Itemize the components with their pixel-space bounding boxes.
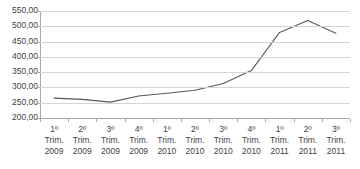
x-axis-tick-label-line: 4º <box>237 124 265 135</box>
plot-area <box>40 11 350 118</box>
gridline <box>40 42 350 43</box>
x-axis-tick-label-line: 2009 <box>96 146 124 157</box>
x-axis-tick-label-line: 3º <box>209 124 237 135</box>
x-axis-tick-label-line: 2011 <box>294 146 322 157</box>
x-axis-tick-mark <box>40 119 41 122</box>
gridline <box>40 57 350 58</box>
y-axis-tick-label: 550,00 <box>2 6 38 15</box>
y-axis-tick-mark <box>36 103 40 104</box>
x-axis-tick-mark <box>294 119 295 122</box>
x-axis-tick-label-line: Trim. <box>68 135 96 146</box>
x-axis-tick-label-line: Trim. <box>96 135 124 146</box>
x-axis-tick-label-line: Trim. <box>181 135 209 146</box>
x-axis-tick-label-line: 4º <box>125 124 153 135</box>
x-axis-tick-label: 2ºTrim.2010 <box>181 124 209 166</box>
x-axis-tick-label-line: 2009 <box>125 146 153 157</box>
x-axis-tick-label-line: 2009 <box>68 146 96 157</box>
x-axis-tick-label-line: 1º <box>40 124 68 135</box>
x-axis-tick-label: 1ºTrim.2011 <box>266 124 294 166</box>
x-axis-tick-label-line: 3º <box>96 124 124 135</box>
gridline <box>40 87 350 88</box>
x-axis-tick-mark <box>237 119 238 122</box>
y-axis-tick-label: 200,00 <box>2 113 38 122</box>
x-axis-tick-label: 3ºTrim.2011 <box>322 124 350 166</box>
x-axis-tick-label-line: 2011 <box>322 146 350 157</box>
y-axis-tick-label: 450,00 <box>2 37 38 46</box>
x-axis-tick-label-line: Trim. <box>294 135 322 146</box>
x-axis-tick-label-line: 2010 <box>153 146 181 157</box>
x-axis-tick-label: 1ºTrim.2009 <box>40 124 68 166</box>
y-axis-tick-mark <box>36 57 40 58</box>
x-axis-tick-label: 3ºTrim.2010 <box>209 124 237 166</box>
x-axis-tick-label-line: Trim. <box>153 135 181 146</box>
x-axis-tick-mark <box>153 119 154 122</box>
x-axis-tick-mark <box>181 119 182 122</box>
y-axis-tick-label: 400,00 <box>2 52 38 61</box>
x-axis-tick-label-line: 2010 <box>181 146 209 157</box>
y-axis-tick-mark <box>36 11 40 12</box>
x-axis-tick-mark <box>350 119 351 122</box>
y-axis-tick-label: 250,00 <box>2 98 38 107</box>
y-axis-tick-label: 500,00 <box>2 21 38 30</box>
x-axis-tick-label-line: 1º <box>153 124 181 135</box>
x-axis-tick-label-line: Trim. <box>237 135 265 146</box>
x-axis-tick-mark <box>209 119 210 122</box>
y-axis-tick-mark <box>36 87 40 88</box>
x-axis-tick-label: 1ºTrim.2010 <box>153 124 181 166</box>
y-axis-tick-mark <box>36 72 40 73</box>
y-axis-tick-mark <box>36 42 40 43</box>
x-axis-tick-label-line: 2010 <box>237 146 265 157</box>
y-axis-tick-label: 300,00 <box>2 82 38 91</box>
x-axis-tick-label-line: 1º <box>266 124 294 135</box>
x-axis-tick-label-line: Trim. <box>209 135 237 146</box>
gridline <box>40 11 350 12</box>
x-axis-tick-label: 2ºTrim.2009 <box>68 124 96 166</box>
x-axis-tick-label-line: 2º <box>181 124 209 135</box>
x-axis-tick-label-line: Trim. <box>266 135 294 146</box>
y-axis-tick-labels: 550,00500,00450,00400,00350,00300,00250,… <box>0 0 38 169</box>
x-axis-tick-label-line: 2º <box>68 124 96 135</box>
x-axis-tick-label-line: 3º <box>322 124 350 135</box>
x-axis-tick-label-line: Trim. <box>40 135 68 146</box>
x-axis-tick-label-line: 2009 <box>40 146 68 157</box>
y-axis-tick-mark <box>36 26 40 27</box>
x-axis-tick-label: 4ºTrim.2010 <box>237 124 265 166</box>
y-axis-tick-label: 350,00 <box>2 67 38 76</box>
x-axis-tick-label-line: Trim. <box>322 135 350 146</box>
x-axis-tick-label-line: 2º <box>294 124 322 135</box>
gridline <box>40 118 350 119</box>
x-axis-tick-label-line: Trim. <box>125 135 153 146</box>
x-axis-tick-label: 3ºTrim.2009 <box>96 124 124 166</box>
x-axis-tick-label: 2ºTrim.2011 <box>294 124 322 166</box>
x-axis-tick-label: 4ºTrim.2009 <box>125 124 153 166</box>
x-axis-tick-mark <box>125 119 126 122</box>
x-axis-tick-label-line: 2011 <box>266 146 294 157</box>
gridline <box>40 26 350 27</box>
line-chart: 550,00500,00450,00400,00350,00300,00250,… <box>0 0 360 169</box>
series-polyline <box>54 20 336 102</box>
x-axis-tick-mark <box>265 119 266 122</box>
x-axis-tick-mark <box>96 119 97 122</box>
gridline <box>40 103 350 104</box>
x-axis-tick-label-line: 2010 <box>209 146 237 157</box>
x-axis-tick-labels: 1ºTrim.20092ºTrim.20093ºTrim.20094ºTrim.… <box>40 124 350 166</box>
gridline <box>40 72 350 73</box>
x-axis-tick-mark <box>68 119 69 122</box>
x-axis-tick-mark <box>322 119 323 122</box>
